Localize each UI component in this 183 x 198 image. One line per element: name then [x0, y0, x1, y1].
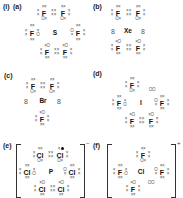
atom-f: F: [30, 30, 34, 37]
central-atom: Br: [39, 98, 46, 105]
electron-pair: ××: [142, 9, 146, 17]
electron-pair: ××: [110, 9, 114, 17]
electron-pair: O×: [60, 17, 66, 22]
electron-pair: ××: [112, 168, 116, 176]
electron-pair: ××: [36, 9, 40, 17]
electron-pair: ××: [149, 125, 154, 130]
electron-pair: ××: [131, 193, 136, 198]
panel-label: (d): [93, 70, 102, 77]
extra-electron-dot: [61, 147, 64, 150]
lone-pair: 8: [141, 28, 145, 35]
electron-pair: ××: [160, 176, 165, 181]
electron-pair: O×: [41, 17, 47, 22]
electron-pair: ××: [160, 107, 165, 112]
electron-pair: ××: [130, 125, 135, 130]
electron-pair: O×: [70, 29, 74, 37]
electron-pair: ××: [137, 185, 141, 193]
electron-pair: ××: [136, 81, 140, 89]
electron-pair: ××: [59, 193, 64, 198]
panel-label: (c): [4, 72, 13, 79]
electron-pair: ××: [24, 29, 28, 37]
electron-pair: ××: [116, 52, 121, 57]
panel-label: (e): [3, 142, 12, 149]
electron-pair: ××: [166, 168, 170, 176]
central-atom: P: [49, 169, 53, 176]
electron-pair: ××: [125, 185, 129, 193]
lone-pair: 8: [57, 98, 61, 105]
electron-pair: O×: [154, 168, 158, 176]
electron-pair: O×: [63, 168, 67, 176]
electron-pair: O×: [135, 17, 141, 22]
electron-pair: O×: [129, 89, 135, 94]
electron-pair: ××: [142, 44, 146, 52]
electron-pair: ×O: [32, 168, 36, 176]
electron-pair: ××: [124, 81, 128, 89]
electron-pair: ××××: [126, 44, 130, 52]
electron-pair: ××: [111, 99, 115, 107]
electron-pair: ××: [66, 185, 70, 193]
electron-pair: ××××: [139, 117, 143, 125]
electron-pair: ××: [56, 82, 60, 90]
panel-label: (f): [93, 142, 100, 149]
electron-pair: ××: [76, 38, 81, 43]
electron-pair: ××: [45, 56, 50, 61]
electron-pair: ×O: [123, 99, 127, 107]
electron-pair: ××××: [40, 82, 44, 90]
electron-pair: ×O: [36, 29, 40, 37]
lone-pair: OO: [148, 181, 154, 186]
electron-pair: ××: [82, 29, 86, 37]
electron-pair: O×: [30, 90, 36, 95]
electron-pair: ×O: [124, 168, 128, 176]
electron-pair: ××××: [50, 185, 54, 193]
atom-f: F: [76, 30, 80, 37]
electron-pair: O×: [37, 159, 43, 164]
central-atom: I: [140, 100, 142, 107]
electron-pair: ××: [77, 168, 81, 176]
electron-pair: ××: [25, 176, 30, 181]
bracket-right: [171, 144, 176, 198]
section-marker: (i): [3, 3, 10, 10]
lone-pair: 8: [24, 98, 28, 105]
electron-pair: ××: [124, 117, 128, 125]
electron-pair: ××: [32, 151, 36, 159]
electron-pair: ××: [136, 52, 141, 57]
ion-charge: −: [86, 140, 90, 146]
central-atom: Cl: [138, 169, 145, 176]
electron-pair: ××: [135, 151, 139, 159]
electron-pair: ××: [70, 176, 75, 181]
electron-pair: ××: [34, 115, 38, 123]
ion-charge: +: [177, 140, 181, 146]
electron-pair: ××: [166, 99, 170, 107]
electron-pair: ××: [18, 168, 22, 176]
electron-pair: ××: [33, 185, 37, 193]
electron-pair: ××: [118, 176, 123, 181]
electron-pair: ××××: [54, 48, 58, 56]
electron-pair: ××××: [51, 9, 55, 17]
electron-pair: ××: [63, 56, 68, 61]
electron-pair: ××: [46, 115, 50, 123]
central-atom: S: [53, 30, 57, 37]
panel-label: (a): [13, 3, 22, 10]
electron-pair: ××: [25, 82, 29, 90]
electron-pair: ××: [67, 9, 71, 17]
electron-pair: ××: [30, 38, 35, 43]
electron-pair: O×: [115, 17, 121, 22]
electron-pair: ××××: [126, 9, 130, 17]
electron-pair: O×: [154, 99, 158, 107]
electron-pair: ××: [30, 24, 35, 29]
electron-pair: ××: [76, 24, 81, 29]
electron-pair: O×: [140, 159, 146, 164]
electron-pair: ××: [65, 151, 69, 159]
electron-pair: ××: [40, 123, 45, 128]
lone-pair: 8: [111, 28, 115, 35]
electron-pair: O×: [57, 159, 63, 164]
panel-label: (b): [93, 3, 102, 10]
electron-pair: ××××: [48, 151, 52, 159]
electron-pair: ××: [147, 151, 151, 159]
electron-pair: O×: [49, 90, 55, 95]
electron-pair: ××: [155, 117, 159, 125]
electron-pair: ××: [69, 48, 73, 56]
electron-pair: ××: [39, 48, 43, 56]
central-atom: Xe: [124, 28, 132, 35]
electron-pair: ××: [110, 44, 114, 52]
